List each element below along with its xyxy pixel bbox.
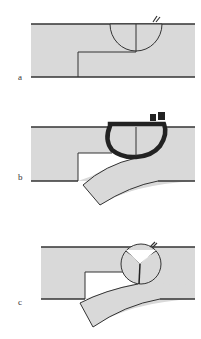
weld-diagram: a b c [0, 0, 201, 339]
panel-b: b [18, 112, 195, 205]
spatter-icon [150, 112, 165, 121]
panel-c: c [18, 242, 195, 327]
panel-a: a [18, 16, 195, 82]
panel-label-b: b [18, 172, 23, 182]
crack-icon [153, 16, 160, 22]
panel-label-a: a [18, 72, 22, 82]
panel-label-c: c [18, 297, 22, 307]
